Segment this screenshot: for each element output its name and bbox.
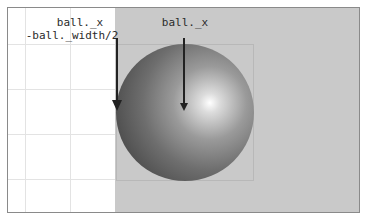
center-arrow-icon [180, 38, 188, 111]
left-edge-arrow-icon [112, 38, 122, 111]
arrows-layer [0, 0, 373, 221]
